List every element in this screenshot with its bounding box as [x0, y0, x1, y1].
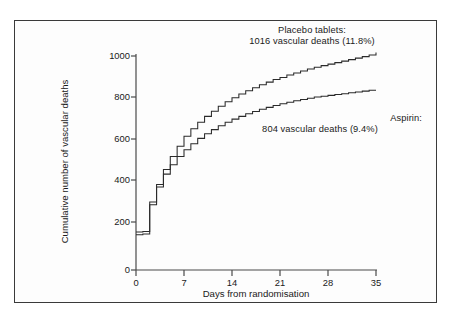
- y-tick-label-1000: 1000: [100, 50, 130, 61]
- y-tick-label-400: 400: [100, 174, 130, 185]
- y-tick-label-800: 800: [100, 91, 130, 102]
- y-tick-label-0: 0: [100, 264, 130, 275]
- series-line-aspirin: [136, 90, 376, 234]
- y-tick-label-600: 600: [100, 133, 130, 144]
- annotation-aspirin-line1: Aspirin:: [214, 113, 426, 123]
- figure-container: 1000 800 600 400 200 0 0 7 14 21 28 35 C…: [0, 0, 451, 318]
- x-axis-ticks: [136, 270, 376, 276]
- series-line-placebo: [136, 53, 376, 232]
- x-tick-label-35: 35: [364, 277, 388, 288]
- y-axis-title: Cumulative number of vascular deaths: [59, 46, 70, 278]
- x-tick-label-14: 14: [220, 277, 244, 288]
- annotation-placebo-line2: 1016 vascular deaths (11.8%): [196, 36, 428, 46]
- x-tick-label-21: 21: [268, 277, 292, 288]
- annotation-aspirin: Aspirin: 804 vascular deaths (9.4%): [214, 113, 426, 134]
- y-axis-ticks: [131, 56, 136, 270]
- y-tick-label-200: 200: [100, 216, 130, 227]
- x-tick-label-7: 7: [172, 277, 196, 288]
- x-tick-label-0: 0: [124, 277, 148, 288]
- annotation-aspirin-line2: 804 vascular deaths (9.4%): [214, 124, 426, 134]
- x-axis-title: Days from randomisation: [136, 288, 376, 299]
- annotation-placebo: Placebo tablets: 1016 vascular deaths (1…: [196, 25, 428, 46]
- annotation-placebo-line1: Placebo tablets:: [196, 25, 428, 35]
- x-tick-label-28: 28: [316, 277, 340, 288]
